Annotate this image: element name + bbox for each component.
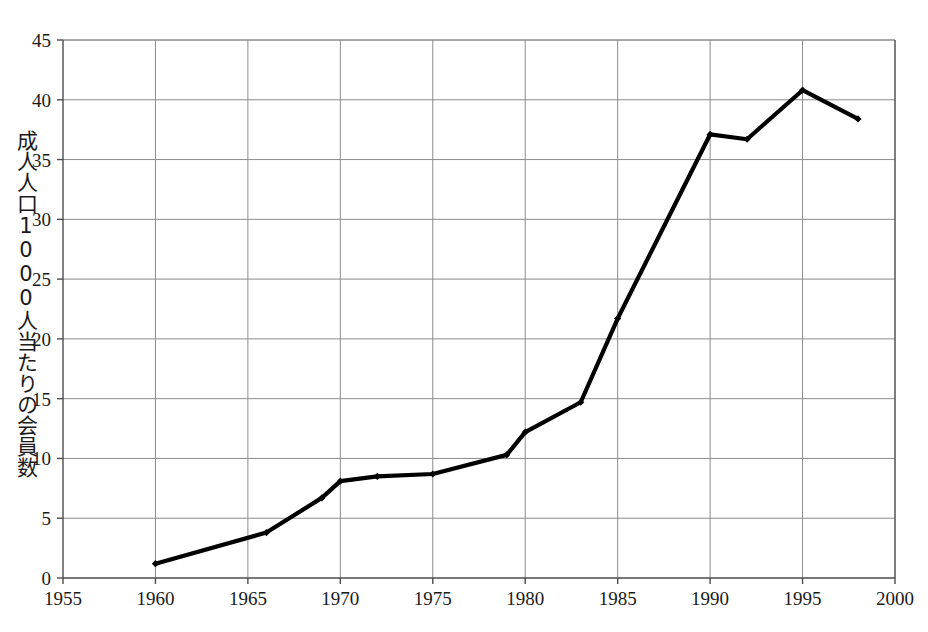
y-tick-label: 0 (42, 568, 52, 589)
y-tick-label: 30 (32, 209, 51, 230)
y-tick-label: 10 (32, 448, 51, 469)
x-tick-label: 1990 (691, 588, 729, 609)
data-series-group (152, 87, 862, 568)
y-tick-label: 25 (32, 269, 51, 290)
x-tick-label: 1970 (321, 588, 359, 609)
x-axis-tick-labels: 1955196019651970197519801985199019952000 (44, 588, 914, 609)
y-tick-label: 20 (32, 329, 51, 350)
x-tick-label: 1995 (784, 588, 822, 609)
data-line (155, 90, 858, 563)
y-tick-label: 5 (42, 508, 52, 529)
x-tick-label: 1975 (414, 588, 452, 609)
data-point-marker (374, 473, 381, 480)
y-tick-label: 40 (32, 90, 51, 111)
chart-container: 成人人口1000人当たりの会員数 19551960196519701975198… (0, 0, 928, 632)
y-tick-label: 15 (32, 389, 51, 410)
y-tick-label: 45 (32, 30, 51, 51)
line-chart-plot: 1955196019651970197519801985199019952000… (0, 0, 928, 632)
y-tick-label: 35 (32, 150, 51, 171)
x-tick-label: 1955 (44, 588, 82, 609)
x-tick-label: 1965 (229, 588, 267, 609)
x-tick-label: 1980 (506, 588, 544, 609)
y-axis-tick-labels: 051015202530354045 (32, 30, 51, 589)
x-tick-label: 1960 (136, 588, 174, 609)
x-tick-label: 1985 (599, 588, 637, 609)
x-tick-label: 2000 (876, 588, 914, 609)
